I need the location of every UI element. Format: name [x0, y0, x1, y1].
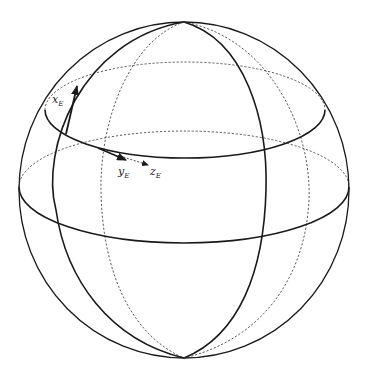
sphere-svg: xE yE zE — [0, 0, 366, 376]
upper-latitude-back — [45, 62, 325, 110]
meridian-back-right — [184, 22, 309, 358]
equator-front — [19, 187, 349, 243]
meridian-front-right — [184, 22, 266, 358]
upper-latitude-front — [45, 110, 325, 158]
x-axis-arrow — [66, 86, 77, 134]
z-axis-label: zE — [149, 165, 161, 180]
meridian-front-left — [53, 22, 184, 358]
y-axis-arrow — [98, 148, 126, 160]
meridian-back-left — [101, 22, 184, 358]
sphere-outline — [19, 22, 349, 358]
y-axis-label: yE — [117, 165, 129, 180]
equator-back — [19, 131, 349, 187]
x-axis-label: xE — [52, 93, 63, 108]
sphere-diagram: xE yE zE — [0, 0, 366, 376]
z-axis-arrow — [120, 156, 148, 165]
